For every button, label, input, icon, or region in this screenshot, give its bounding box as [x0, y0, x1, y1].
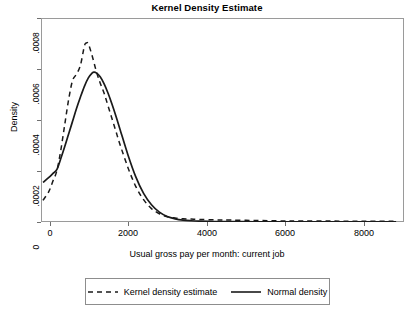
- y-tick-label-0008: .0008: [31, 19, 41, 67]
- y-tick-label-0004: .0004: [31, 121, 41, 169]
- y-tick-label-0002: .0002: [31, 172, 41, 220]
- plot-canvas: [41, 18, 404, 222]
- legend-label-kernel: Kernel density estimate: [124, 287, 218, 297]
- kernel-density-figure: Kernel Density Estimate Density .0008 .0…: [0, 0, 414, 314]
- x-tick-mark: [364, 222, 365, 226]
- dashed-line-icon: [88, 288, 118, 296]
- x-tick-label-2000: 2000: [108, 228, 148, 238]
- x-tick-label-4000: 4000: [187, 228, 227, 238]
- x-axis-title: Usual gross pay per month: current job: [0, 249, 414, 259]
- x-tick-mark: [128, 222, 129, 226]
- series-line-1: [43, 72, 396, 222]
- y-axis-title: Density: [9, 77, 19, 157]
- legend-entry-kernel: Kernel density estimate: [88, 287, 218, 297]
- legend-entry-normal: Normal density: [231, 287, 327, 297]
- x-tick-mark: [285, 222, 286, 226]
- series-line-0: [43, 43, 396, 222]
- x-tick-label-0: 0: [30, 228, 70, 238]
- x-tick-label-8000: 8000: [344, 228, 384, 238]
- x-tick-mark: [50, 222, 51, 226]
- y-tick-label-0006: .0006: [31, 70, 41, 118]
- page-title: Kernel Density Estimate: [0, 2, 414, 13]
- legend-label-normal: Normal density: [267, 287, 327, 297]
- legend: Kernel density estimate Normal density: [85, 278, 330, 305]
- solid-line-icon: [231, 288, 261, 296]
- x-tick-label-6000: 6000: [265, 228, 305, 238]
- x-tick-mark: [207, 222, 208, 226]
